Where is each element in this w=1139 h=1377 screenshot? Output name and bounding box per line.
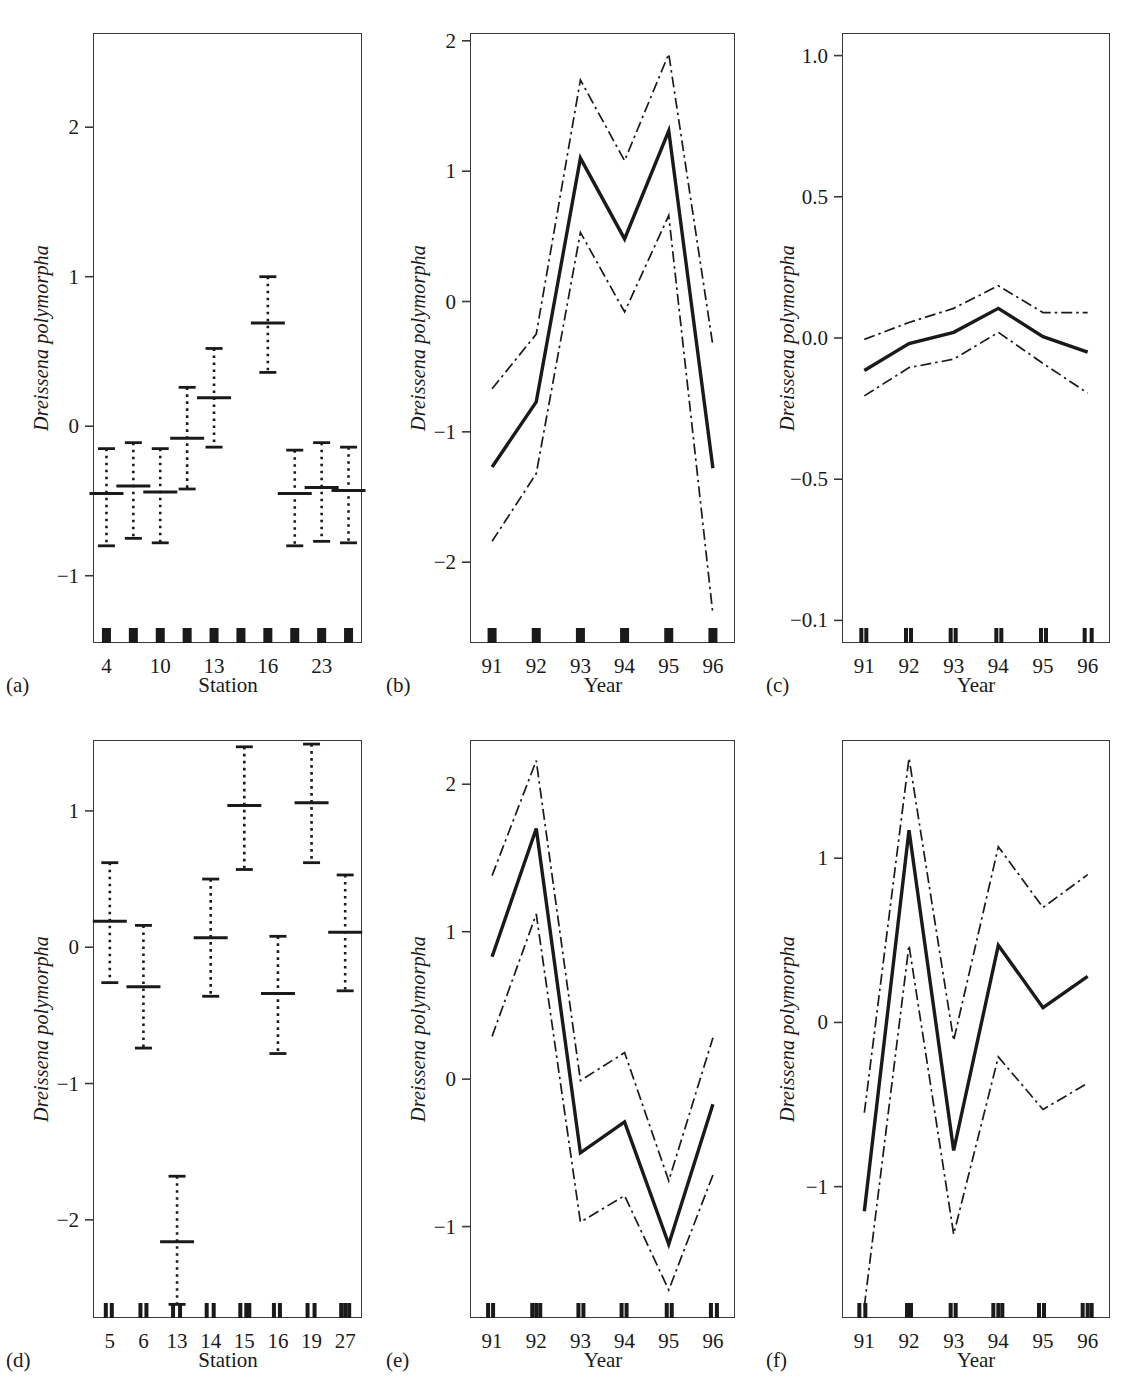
rug-mark [138, 1303, 142, 1318]
rug-mark [212, 1303, 216, 1318]
rug-mark [1042, 1303, 1046, 1318]
x-tick-label: 6 [138, 1329, 149, 1353]
rug-mark [144, 1303, 148, 1318]
panel-d-xlabel: Station [153, 1348, 303, 1373]
panel-a-graphics: 210−1410131623 [0, 0, 380, 705]
rug-mark [1090, 628, 1094, 643]
panel-c-label: (c) [766, 673, 789, 698]
error-bar [89, 449, 123, 546]
error-bar [251, 277, 285, 373]
rug-mark [129, 628, 138, 643]
y-tick-label: 1 [446, 159, 457, 183]
x-tick-label: 96 [702, 1329, 723, 1353]
y-tick-label: 2 [446, 29, 457, 53]
panel-c-graphics: 1.00.50.0−0.5−0.1919293949596 [760, 0, 1139, 705]
panel-c: 1.00.50.0−0.5−0.1919293949596 Dreissena … [760, 0, 1139, 705]
y-tick-label: 1 [69, 799, 80, 823]
panel-b: 210−1−2919293949596 Dreissena polymorpha… [380, 0, 760, 705]
panel-f-label: (f) [766, 1348, 787, 1373]
panel-b-ylabel: Dreissena polymorpha [407, 245, 430, 431]
panel-f-xlabel: Year [901, 1348, 1051, 1373]
rug-mark [996, 1303, 1000, 1318]
rug-mark [247, 1303, 251, 1318]
x-tick-label: 23 [311, 654, 332, 678]
rug-mark [534, 1303, 538, 1318]
rug-mark [909, 1303, 913, 1318]
rug-mark [994, 628, 998, 643]
y-tick-label: 0.5 [802, 185, 828, 209]
rug-mark [272, 1303, 276, 1318]
rug-mark [486, 1303, 490, 1318]
error-bar [261, 936, 295, 1053]
y-tick-label: 2 [446, 772, 457, 796]
error-bar [328, 875, 362, 991]
smoother-line [492, 828, 713, 1244]
rug-mark [949, 628, 953, 643]
rug-mark [205, 1303, 209, 1318]
y-tick-label: −1 [434, 420, 456, 444]
x-tick-label: 91 [854, 1329, 875, 1353]
panel-a-ylabel: Dreissena polymorpha [30, 245, 53, 431]
rug-mark [859, 628, 863, 643]
panel-f-graphics: 10−1919293949596 [760, 705, 1139, 1377]
panel-b-graphics: 210−1−2919293949596 [380, 0, 760, 705]
x-tick-label: 96 [702, 654, 723, 678]
y-tick-label: −1 [434, 1215, 456, 1239]
error-bar [278, 450, 312, 546]
rug-mark [709, 1303, 713, 1318]
rug-mark [581, 1303, 585, 1318]
figure-canvas: 210−1410131623 Dreissena polymorpha Stat… [0, 0, 1139, 1377]
y-tick-label: −2 [57, 1208, 79, 1232]
x-tick-label: 27 [335, 1329, 356, 1353]
x-tick-label: 5 [105, 1329, 116, 1353]
rug-mark [1000, 1303, 1004, 1318]
y-tick-label: −1 [806, 1175, 828, 1199]
rug-mark [954, 1303, 958, 1318]
rug-mark [864, 628, 868, 643]
rug-mark [156, 628, 165, 643]
rug-mark [236, 628, 245, 643]
error-bar [332, 447, 366, 543]
rug-mark [263, 628, 272, 643]
rug-mark [110, 1303, 114, 1318]
rug-mark [1039, 628, 1043, 643]
rug-mark [1044, 628, 1048, 643]
rug-mark [491, 1303, 495, 1318]
error-bar [197, 348, 231, 447]
rug-mark [347, 1303, 351, 1318]
rug-mark [210, 628, 219, 643]
rug-mark [1037, 1303, 1041, 1318]
y-tick-label: −0.1 [790, 608, 828, 632]
rug-mark [909, 628, 913, 643]
panel-f: 10−1919293949596 Dreissena polymorpha Ye… [760, 705, 1139, 1377]
panel-c-ylabel: Dreissena polymorpha [776, 245, 799, 431]
rug-mark [576, 1303, 580, 1318]
panel-a: 210−1410131623 Dreissena polymorpha Stat… [0, 0, 380, 705]
x-tick-label: 96 [1077, 654, 1098, 678]
panel-e-graphics: 210−1919293949596 [380, 705, 760, 1377]
rug-mark [104, 1303, 108, 1318]
y-tick-label: 0 [446, 1067, 457, 1091]
y-tick-label: 0 [69, 414, 80, 438]
smoother-line [864, 830, 1087, 1211]
error-bar [170, 387, 204, 489]
rug-mark [999, 628, 1003, 643]
x-tick-label: 91 [482, 654, 503, 678]
rug-mark [715, 1303, 719, 1318]
rug-mark [625, 1303, 629, 1318]
rug-mark [1083, 628, 1087, 643]
y-tick-label: 0 [818, 1010, 829, 1034]
error-bar [227, 747, 261, 870]
rug-mark [317, 628, 326, 643]
rug-mark [290, 628, 299, 643]
rug-mark [954, 628, 958, 643]
rug-mark [102, 628, 111, 643]
panel-e: 210−1919293949596 Dreissena polymorpha Y… [380, 705, 760, 1377]
error-bar [160, 1176, 194, 1304]
error-bar [93, 863, 127, 983]
panel-e-ylabel: Dreissena polymorpha [407, 936, 430, 1122]
rug-mark [530, 1303, 534, 1318]
panel-e-xlabel: Year [528, 1348, 678, 1373]
rug-mark [278, 1303, 282, 1318]
rug-mark [991, 1303, 995, 1318]
